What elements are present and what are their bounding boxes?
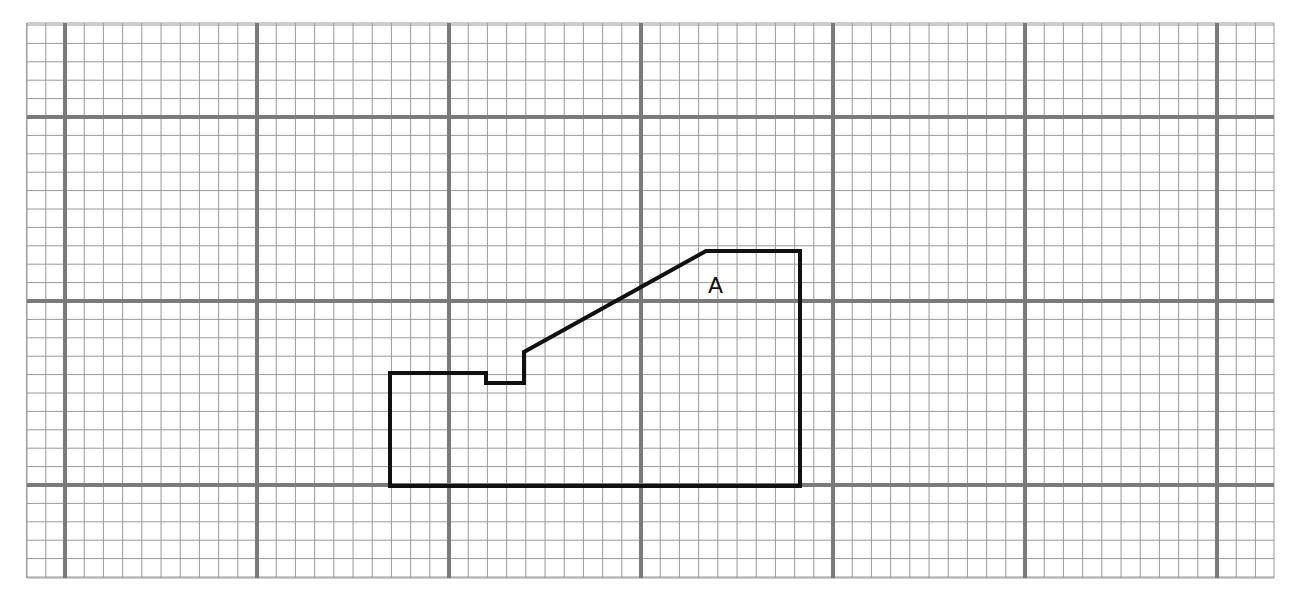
shape-label: A <box>708 273 723 298</box>
graph-paper: A <box>0 0 1290 602</box>
major-grid <box>27 23 1274 578</box>
shape-a-outline <box>390 251 800 486</box>
